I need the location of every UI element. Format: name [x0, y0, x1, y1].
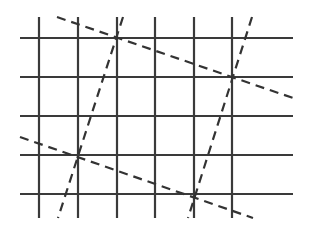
- dashed-line-upper-descending: [57, 17, 293, 98]
- dashed-lines: [20, 17, 293, 218]
- dashed-line-right-steep: [188, 17, 252, 218]
- grid-diagram: [0, 0, 320, 230]
- dashed-line-lower-descending: [20, 137, 253, 218]
- dashed-line-left-steep: [58, 17, 123, 218]
- grid-lines: [20, 17, 293, 218]
